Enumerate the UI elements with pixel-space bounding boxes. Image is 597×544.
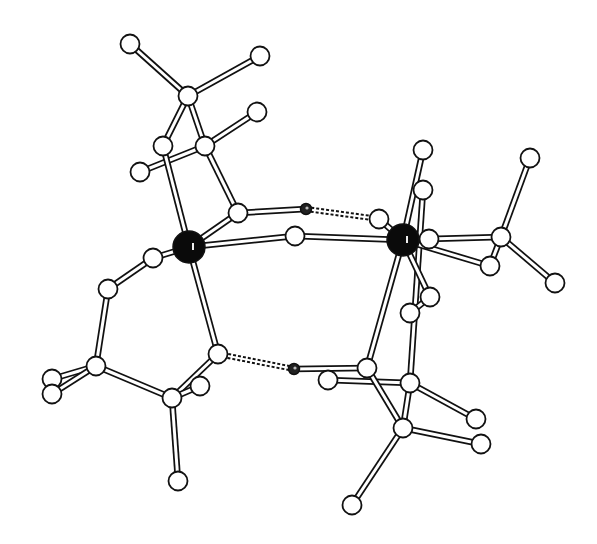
atom: [99, 280, 118, 299]
atom: [358, 359, 377, 378]
atom: [481, 257, 500, 276]
atom: [319, 371, 338, 390]
atom: [414, 141, 433, 160]
atom: [43, 385, 62, 404]
atom: [420, 230, 439, 249]
bond: [294, 368, 367, 369]
atom: [209, 345, 228, 364]
atom: [286, 227, 305, 246]
metal-atom: [387, 224, 419, 256]
atom: [87, 357, 106, 376]
bond: [429, 237, 501, 239]
atom: [414, 181, 433, 200]
molecule-diagram: [0, 0, 597, 544]
atom: [472, 435, 491, 454]
atom: [154, 137, 173, 156]
atom: [401, 374, 420, 393]
hydrogen-atom: [289, 364, 300, 375]
atom: [248, 103, 267, 122]
atom: [343, 496, 362, 515]
bond: [328, 380, 410, 383]
atom: [521, 149, 540, 168]
atom: [191, 377, 210, 396]
atom: [169, 472, 188, 491]
atom: [370, 210, 389, 229]
atom: [131, 163, 150, 182]
atom: [394, 419, 413, 438]
atom: [229, 204, 248, 223]
atom: [492, 228, 511, 247]
atom: [179, 87, 198, 106]
atom: [121, 35, 140, 54]
atom: [421, 288, 440, 307]
atom: [401, 304, 420, 323]
background: [0, 0, 597, 544]
atom: [163, 389, 182, 408]
hydrogen-atom: [301, 204, 312, 215]
atom: [546, 274, 565, 293]
metal-atom: [173, 231, 205, 263]
atom: [196, 137, 215, 156]
atom: [467, 410, 486, 429]
atom: [251, 47, 270, 66]
atom: [144, 249, 163, 268]
